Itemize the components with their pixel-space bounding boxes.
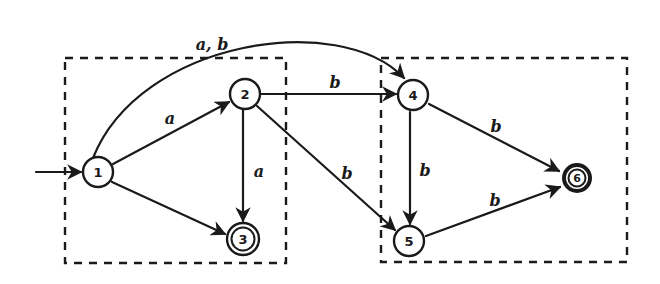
state-label: 1 (93, 165, 102, 180)
state-node-3: 3 (227, 223, 259, 255)
state-label: 4 (408, 88, 417, 103)
state-node-1: 1 (83, 157, 113, 187)
edge-label-4-6: b (490, 117, 501, 136)
state-node-4: 4 (398, 80, 428, 110)
edge-1-3 (112, 182, 225, 234)
state-label: 6 (573, 172, 581, 185)
state-node-6: 6 (564, 165, 590, 191)
state-label: 5 (404, 234, 413, 249)
edge-label-4-5: b (419, 161, 430, 180)
state-label: 3 (238, 232, 247, 247)
edge-2-5 (257, 106, 395, 230)
automaton-diagram: a a, b a b b b b b 1 2 3 4 5 6 (0, 0, 660, 284)
state-label: 2 (240, 87, 249, 102)
state-node-5: 5 (394, 226, 424, 256)
edge-label-5-6: b (489, 191, 500, 210)
edge-label-2-4: b (329, 73, 340, 92)
state-node-2: 2 (230, 79, 260, 109)
edge-label-1-4: a, b (196, 35, 229, 54)
edge-label-2-5: b (341, 164, 352, 183)
edge-label-2-3: a (254, 162, 264, 181)
edge-label-1-2: a (165, 109, 175, 128)
edge-4-6 (429, 104, 559, 171)
